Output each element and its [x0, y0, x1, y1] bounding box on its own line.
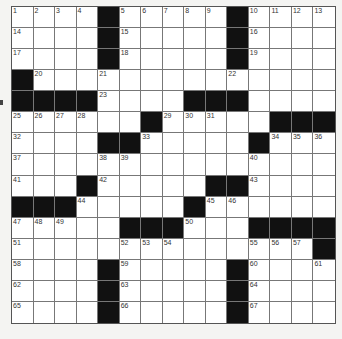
answer-cell[interactable]: [34, 28, 56, 49]
answer-cell[interactable]: [141, 260, 163, 281]
answer-cell[interactable]: 37: [12, 154, 34, 175]
answer-cell[interactable]: [34, 176, 56, 197]
answer-cell[interactable]: [34, 239, 56, 260]
answer-cell[interactable]: [227, 154, 249, 175]
answer-cell[interactable]: 16: [249, 28, 271, 49]
answer-cell[interactable]: [227, 112, 249, 133]
answer-cell[interactable]: 25: [12, 112, 34, 133]
answer-cell[interactable]: 27: [55, 112, 77, 133]
answer-cell[interactable]: [292, 28, 314, 49]
answer-cell[interactable]: [77, 49, 99, 70]
answer-cell[interactable]: [292, 49, 314, 70]
answer-cell[interactable]: [184, 281, 206, 302]
answer-cell[interactable]: 38: [98, 154, 120, 175]
answer-cell[interactable]: [163, 260, 185, 281]
answer-cell[interactable]: 60: [249, 260, 271, 281]
answer-cell[interactable]: [141, 281, 163, 302]
answer-cell[interactable]: 19: [249, 49, 271, 70]
answer-cell[interactable]: [184, 28, 206, 49]
answer-cell[interactable]: [249, 112, 271, 133]
answer-cell[interactable]: 52: [120, 239, 142, 260]
answer-cell[interactable]: 11: [270, 7, 292, 28]
answer-cell[interactable]: [292, 260, 314, 281]
answer-cell[interactable]: [141, 49, 163, 70]
answer-cell[interactable]: 67: [249, 302, 271, 323]
answer-cell[interactable]: [34, 281, 56, 302]
answer-cell[interactable]: 18: [120, 49, 142, 70]
answer-cell[interactable]: [249, 70, 271, 91]
answer-cell[interactable]: 4: [77, 7, 99, 28]
answer-cell[interactable]: [184, 49, 206, 70]
answer-cell[interactable]: 28: [77, 112, 99, 133]
answer-cell[interactable]: [292, 197, 314, 218]
answer-cell[interactable]: 42: [98, 176, 120, 197]
answer-cell[interactable]: [270, 49, 292, 70]
answer-cell[interactable]: [120, 70, 142, 91]
answer-cell[interactable]: [184, 154, 206, 175]
answer-cell[interactable]: [98, 112, 120, 133]
answer-cell[interactable]: [98, 218, 120, 239]
answer-cell[interactable]: [55, 302, 77, 323]
answer-cell[interactable]: [163, 302, 185, 323]
answer-cell[interactable]: [163, 133, 185, 154]
answer-cell[interactable]: 44: [77, 197, 99, 218]
answer-cell[interactable]: [163, 70, 185, 91]
answer-cell[interactable]: [206, 133, 228, 154]
answer-cell[interactable]: 34: [270, 133, 292, 154]
answer-cell[interactable]: [163, 197, 185, 218]
answer-cell[interactable]: [292, 91, 314, 112]
answer-cell[interactable]: 33: [141, 133, 163, 154]
answer-cell[interactable]: [292, 154, 314, 175]
answer-cell[interactable]: [98, 197, 120, 218]
answer-cell[interactable]: 59: [120, 260, 142, 281]
answer-cell[interactable]: [34, 154, 56, 175]
answer-cell[interactable]: 49: [55, 218, 77, 239]
answer-cell[interactable]: [184, 302, 206, 323]
answer-cell[interactable]: 56: [270, 239, 292, 260]
answer-cell[interactable]: 1: [12, 7, 34, 28]
answer-cell[interactable]: [227, 218, 249, 239]
answer-cell[interactable]: 29: [163, 112, 185, 133]
answer-cell[interactable]: [249, 91, 271, 112]
answer-cell[interactable]: [163, 281, 185, 302]
answer-cell[interactable]: [270, 302, 292, 323]
answer-cell[interactable]: [55, 176, 77, 197]
answer-cell[interactable]: [270, 28, 292, 49]
answer-cell[interactable]: 66: [120, 302, 142, 323]
answer-cell[interactable]: 57: [292, 239, 314, 260]
answer-cell[interactable]: 23: [98, 91, 120, 112]
answer-cell[interactable]: [77, 28, 99, 49]
answer-cell[interactable]: [184, 176, 206, 197]
answer-cell[interactable]: 65: [12, 302, 34, 323]
answer-cell[interactable]: [55, 70, 77, 91]
answer-cell[interactable]: 50: [184, 218, 206, 239]
answer-cell[interactable]: [206, 154, 228, 175]
answer-cell[interactable]: [270, 197, 292, 218]
answer-cell[interactable]: [120, 112, 142, 133]
answer-cell[interactable]: [270, 176, 292, 197]
answer-cell[interactable]: [163, 154, 185, 175]
answer-cell[interactable]: 39: [120, 154, 142, 175]
answer-cell[interactable]: 6: [141, 7, 163, 28]
answer-cell[interactable]: [120, 91, 142, 112]
answer-cell[interactable]: [141, 154, 163, 175]
answer-cell[interactable]: [77, 302, 99, 323]
answer-cell[interactable]: 63: [120, 281, 142, 302]
answer-cell[interactable]: [77, 218, 99, 239]
answer-cell[interactable]: [141, 28, 163, 49]
answer-cell[interactable]: [98, 239, 120, 260]
answer-cell[interactable]: [141, 91, 163, 112]
answer-cell[interactable]: [77, 260, 99, 281]
answer-cell[interactable]: 62: [12, 281, 34, 302]
answer-cell[interactable]: [163, 28, 185, 49]
answer-cell[interactable]: 55: [249, 239, 271, 260]
answer-cell[interactable]: [313, 49, 335, 70]
answer-cell[interactable]: 53: [141, 239, 163, 260]
answer-cell[interactable]: 45: [206, 197, 228, 218]
answer-cell[interactable]: [249, 197, 271, 218]
answer-cell[interactable]: [206, 28, 228, 49]
answer-cell[interactable]: 32: [12, 133, 34, 154]
answer-cell[interactable]: [55, 28, 77, 49]
answer-cell[interactable]: [313, 154, 335, 175]
answer-cell[interactable]: 61: [313, 260, 335, 281]
